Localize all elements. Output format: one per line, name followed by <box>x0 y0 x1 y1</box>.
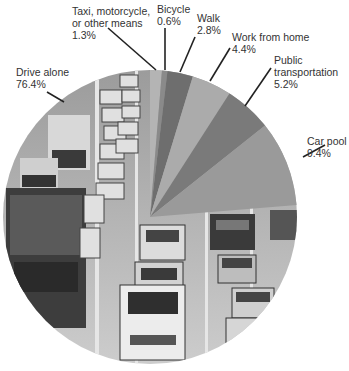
label-value: 9.4% <box>307 147 347 159</box>
label-work-from-home: Work from home 4.4% <box>232 31 309 55</box>
label-text: Car pool <box>307 135 347 147</box>
label-car-pool: Car pool 9.4% <box>307 135 347 159</box>
label-text: Bicycle <box>157 3 190 15</box>
label-text: transportation <box>274 66 338 78</box>
label-drive-alone: Drive alone 76.4% <box>16 66 69 90</box>
label-text: Work from home <box>232 31 309 43</box>
label-walk: Walk 2.8% <box>197 12 221 36</box>
label-taxi: Taxi, motorcycle, or other means 1.3% <box>72 5 150 41</box>
pie-wedges <box>150 70 297 217</box>
label-bicycle: Bicycle 0.6% <box>157 3 190 27</box>
label-public-transportation: Public transportation 5.2% <box>274 54 338 90</box>
label-text: Taxi, motorcycle, <box>72 5 150 17</box>
label-text: Drive alone <box>16 66 69 78</box>
label-text: Walk <box>197 12 221 24</box>
label-value: 76.4% <box>16 78 69 90</box>
label-text: or other means <box>72 17 150 29</box>
label-value: 1.3% <box>72 29 150 41</box>
label-value: 0.6% <box>157 15 190 27</box>
label-value: 5.2% <box>274 78 338 90</box>
label-value: 2.8% <box>197 24 221 36</box>
label-text: Public <box>274 54 338 66</box>
